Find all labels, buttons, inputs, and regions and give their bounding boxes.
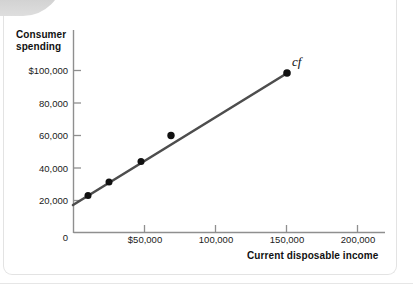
x-axis-ticks [145, 225, 358, 232]
x-axis-title: Current disposable income [247, 250, 378, 262]
y-axis-ticks [74, 71, 81, 201]
y-tick-label-60000: 60,000 [4, 130, 68, 141]
y-tick-label-40000: 40,000 [4, 163, 68, 174]
y-tick-label-0: 0 [4, 232, 68, 243]
y-axis-title-line-2: spending [16, 41, 66, 53]
data-point [106, 179, 113, 186]
y-tick-label-100000: $100,000 [4, 65, 68, 76]
consumption-function-label: cf [292, 54, 301, 70]
y-axis-title: Consumer spending [16, 29, 66, 53]
data-point [85, 192, 92, 199]
x-tick-label-100000: 100,000 [199, 234, 233, 245]
data-point [167, 132, 174, 139]
consumption-function-line [73, 72, 289, 205]
data-point [138, 158, 145, 165]
y-axis-title-line-1: Consumer [16, 29, 66, 41]
y-tick-label-20000: 20,000 [4, 195, 68, 206]
y-tick-label-80000: 80,000 [4, 98, 68, 109]
data-point [283, 69, 291, 77]
x-tick-label-200000: 200,000 [341, 234, 375, 245]
x-tick-label-50000: $50,000 [128, 234, 162, 245]
x-tick-label-150000: 150,000 [270, 234, 304, 245]
figure-root: Consumer spending $100,000 80,000 60,000… [0, 0, 413, 290]
